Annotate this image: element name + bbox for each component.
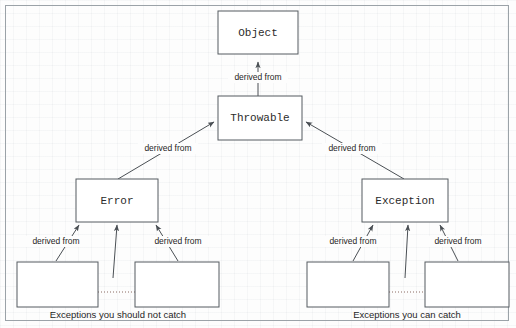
edge-label-throwable-object: derived from [234,72,281,82]
node-throwable[interactable]: Throwable [218,96,302,140]
node-object-label: Object [238,27,278,39]
edge-exception-sub-right-to-exception: derived from [427,225,489,261]
node-error-sub-left[interactable] [17,262,98,307]
caption-right: Exceptions you can catch [353,309,461,320]
edge-label-error-throwable: derived from [144,143,191,153]
edge-error-sub-middle-to-error [113,225,117,278]
edge-error-sub-right-to-error: derived from [147,225,209,261]
node-error-label: Error [100,195,133,207]
edge-error-to-throwable: derived from [118,122,214,179]
edge-label-exception-sub-left: derived from [329,236,376,246]
node-exception-label: Exception [375,195,434,207]
edge-exception-to-throwable: derived from [306,122,404,179]
edge-label-exception-sub-right: derived from [434,236,481,246]
edge-exception-sub-middle-to-exception [405,225,408,278]
node-exception[interactable]: Exception [362,179,448,222]
node-exception-sub-right[interactable] [425,262,509,307]
node-object[interactable]: Object [218,11,298,54]
edge-exception-sub-left-to-exception: derived from [322,225,384,261]
node-throwable-label: Throwable [230,112,289,124]
edge-label-exception-throwable: derived from [328,143,375,153]
node-error-sub-right[interactable] [135,262,219,307]
edge-label-error-sub-right: derived from [154,236,201,246]
diagram-figure: derived from derived from derived from d… [0,0,516,328]
hierarchy-diagram: derived from derived from derived from d… [0,0,516,328]
caption-left: Exceptions you should not catch [50,309,186,320]
node-error[interactable]: Error [76,179,158,222]
edge-throwable-to-object: derived from [228,62,288,96]
edge-error-sub-left-to-error: derived from [25,225,87,261]
node-exception-sub-left[interactable] [307,262,389,307]
edge-label-error-sub-left: derived from [32,236,79,246]
